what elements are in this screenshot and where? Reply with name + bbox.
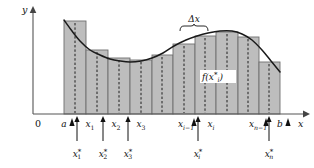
- label-subscript: n: [269, 153, 273, 160]
- axis-tick-label: b: [277, 119, 283, 129]
- axis-tick-label: x*2: [99, 148, 108, 160]
- axis-tick-label: x*n: [265, 148, 274, 160]
- axis-tick-label: x3: [136, 119, 145, 131]
- x-axis-label: x: [298, 118, 304, 129]
- label-base: b: [277, 119, 283, 129]
- label-subscript: 1: [77, 153, 81, 160]
- axis-tick-label: x*3: [124, 148, 133, 160]
- sample-point-arrowhead: [195, 116, 200, 122]
- delta-x-label: Δx: [187, 14, 200, 24]
- axis-tick-label: xi: [207, 119, 214, 131]
- riemann-rectangle: [86, 50, 108, 114]
- fx-label: f(x*i): [201, 71, 223, 83]
- label-subscript: 3: [142, 124, 146, 131]
- partition-arrowhead: [69, 118, 74, 126]
- label-subscript: 2: [103, 153, 107, 160]
- label-base: a: [61, 119, 66, 129]
- delta-x-annotation: Δx: [180, 14, 208, 31]
- axis-tick-label: x1: [85, 119, 94, 131]
- fx-label-base: f(x: [201, 72, 214, 82]
- sample-point-arrowhead: [125, 116, 130, 122]
- sample-point-arrowhead: [266, 116, 271, 122]
- label-subscript: i: [213, 124, 215, 131]
- origin-label: 0: [35, 118, 41, 129]
- y-axis-label: y: [21, 4, 28, 15]
- delta-x-brace: [180, 24, 208, 31]
- label-subscript: 2: [117, 124, 121, 131]
- function-value-annotation: f(x*i): [200, 70, 236, 83]
- axis-tick-label: a: [61, 119, 66, 129]
- partition-tick-labels-group: ax1x2x3xi−1xixn−1b: [61, 118, 290, 131]
- axis-tick-label: xi−1: [178, 119, 194, 131]
- axis-tick-label: x*1: [73, 148, 82, 160]
- label-subscript: i: [198, 153, 200, 160]
- sample-point-arrowhead: [100, 116, 105, 122]
- x-axis-arrowhead: [303, 111, 310, 118]
- label-subscript: 1: [91, 124, 95, 131]
- axis-tick-label: x2: [111, 119, 120, 131]
- axis-tick-label: x*i: [194, 148, 203, 160]
- riemann-sum-diagram: y x 0 ax1x2x3xi−1xixn−1b x*1x*2x*3x*ix*n…: [0, 0, 314, 168]
- sample-point-arrowhead: [74, 116, 79, 122]
- riemann-sum-figure: y x 0 ax1x2x3xi−1xixn−1b x*1x*2x*3x*ix*n…: [0, 0, 314, 168]
- y-axis-arrowhead: [30, 6, 37, 13]
- fx-label-close: ): [218, 72, 223, 82]
- sample-tick-labels-group: x*1x*2x*3x*ix*n: [73, 116, 274, 160]
- partition-arrowhead: [285, 118, 290, 126]
- label-subscript: 3: [128, 153, 132, 160]
